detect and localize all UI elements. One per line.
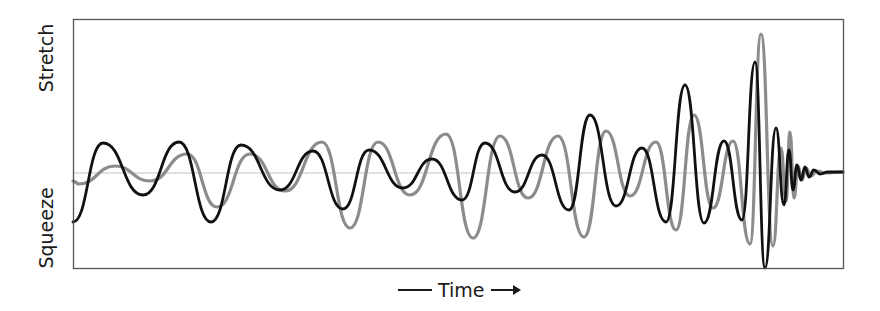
x-axis-leading-line	[398, 289, 432, 291]
series-gray-waveform	[73, 34, 843, 246]
y-axis-label-stretch: Stretch	[35, 24, 57, 93]
waveform-chart	[0, 0, 880, 311]
x-axis-label-text: Time	[438, 278, 485, 302]
y-axis-label-squeeze: Squeeze	[35, 187, 57, 268]
x-axis-label: Time	[398, 278, 519, 302]
arrow-right-icon	[491, 289, 519, 291]
